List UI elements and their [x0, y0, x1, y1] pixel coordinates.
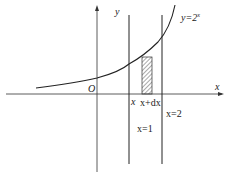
x-equals-2-label: x=2: [166, 109, 182, 119]
x-axis-label: x: [215, 82, 219, 92]
x-tick-label: x: [131, 97, 135, 107]
y-axis-label: y: [115, 7, 119, 17]
exponential-curve: [36, 5, 175, 88]
x-plus-dx-label: x+dx: [140, 98, 161, 108]
x-equals-1-label: x=1: [137, 124, 153, 134]
origin-label: O: [88, 84, 95, 94]
y-axis: [95, 5, 99, 172]
diagram-canvas: y x O y=2x x x+dx x=1 x=2: [0, 0, 226, 182]
x-axis: [6, 92, 224, 96]
differential-strip: [142, 57, 152, 94]
curve-label: y=2x: [181, 12, 200, 23]
diagram-svg: [0, 0, 226, 182]
